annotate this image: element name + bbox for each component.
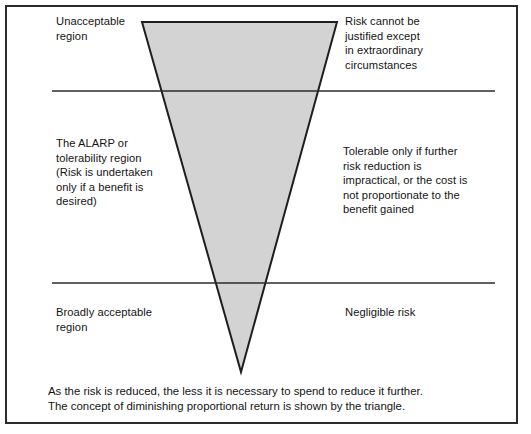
figure-caption: As the risk is reduced, the less it is n… [48,384,498,415]
region-label-unacceptable: Unacceptable region [56,14,166,43]
alarp-risk-triangle-figure: Unacceptable region Risk cannot be justi… [0,0,531,434]
region-description-broadly-acceptable: Negligible risk [345,305,495,320]
region-label-alarp: The ALARP or tolerability region (Risk i… [56,136,201,209]
region-description-unacceptable: Risk cannot be justified except in extra… [345,14,495,72]
region-description-alarp: Tolerable only if further risk reduction… [343,144,503,217]
region-label-broadly-acceptable: Broadly acceptable region [56,305,196,334]
